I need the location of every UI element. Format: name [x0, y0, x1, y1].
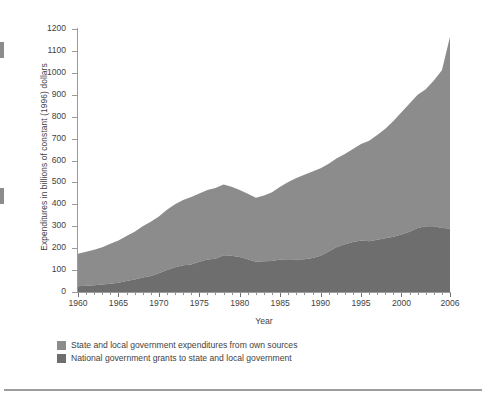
x-tick-mark-1975 — [199, 293, 200, 297]
x-minor-tick-1996 — [369, 293, 370, 295]
y-tick-mark-800 — [72, 117, 77, 118]
y-tick-label-100: 100 — [32, 265, 66, 274]
x-tick-mark-2000 — [401, 293, 402, 297]
x-tick-label-1980: 1980 — [230, 298, 249, 308]
x-minor-tick-1993 — [345, 293, 346, 295]
x-minor-tick-1962 — [94, 293, 95, 295]
y-tick-label-500: 500 — [32, 177, 66, 186]
y-tick-label-0: 0 — [32, 287, 66, 296]
x-minor-tick-1967 — [135, 293, 136, 295]
y-tick-mark-1200 — [72, 29, 77, 30]
x-minor-tick-2004 — [434, 293, 435, 295]
chart-legend: State and local government expenditures … — [57, 341, 297, 367]
x-tick-label-1975: 1975 — [190, 298, 209, 308]
x-tick-label-2006: 2006 — [440, 298, 459, 308]
y-tick-mark-300 — [72, 226, 77, 227]
x-minor-tick-1991 — [329, 293, 330, 295]
x-minor-tick-2005 — [442, 293, 443, 295]
x-minor-tick-1974 — [191, 293, 192, 295]
y-tick-mark-500 — [72, 182, 77, 183]
stacked-area-svg — [78, 29, 450, 292]
x-minor-tick-1973 — [183, 293, 184, 295]
y-tick-mark-400 — [72, 204, 77, 205]
x-minor-tick-2003 — [426, 293, 427, 295]
x-minor-tick-1988 — [304, 293, 305, 295]
bottom-horizontal-rule — [4, 389, 482, 391]
x-tick-mark-2006 — [450, 293, 451, 297]
x-axis-title: Year — [78, 316, 450, 326]
legend-item-own-sources: State and local government expenditures … — [57, 341, 297, 350]
x-tick-label-1965: 1965 — [109, 298, 128, 308]
y-tick-label-400: 400 — [32, 199, 66, 208]
x-minor-tick-1978 — [224, 293, 225, 295]
x-minor-tick-1972 — [175, 293, 176, 295]
x-minor-tick-1979 — [232, 293, 233, 295]
x-minor-tick-1999 — [393, 293, 394, 295]
x-tick-mark-1965 — [118, 293, 119, 297]
y-tick-mark-0 — [72, 292, 77, 293]
y-tick-label-200: 200 — [32, 243, 66, 252]
y-tick-mark-1000 — [72, 73, 77, 74]
x-minor-tick-1983 — [264, 293, 265, 295]
left-edge-crop-mark-bottom — [0, 188, 4, 204]
y-tick-mark-600 — [72, 161, 77, 162]
x-minor-tick-1968 — [143, 293, 144, 295]
y-tick-label-1100: 1100 — [32, 46, 66, 55]
x-minor-tick-1977 — [215, 293, 216, 295]
y-tick-mark-900 — [72, 95, 77, 96]
x-tick-mark-1980 — [240, 293, 241, 297]
y-tick-label-300: 300 — [32, 221, 66, 230]
x-minor-tick-1998 — [385, 293, 386, 295]
y-tick-label-1000: 1000 — [32, 68, 66, 77]
x-tick-label-1990: 1990 — [311, 298, 330, 308]
x-minor-tick-1997 — [377, 293, 378, 295]
legend-item-grants: National government grants to state and … — [57, 354, 297, 363]
x-tick-mark-1995 — [361, 293, 362, 297]
plot-area — [78, 29, 450, 292]
x-minor-tick-1969 — [151, 293, 152, 295]
x-minor-tick-1986 — [288, 293, 289, 295]
chart-figure: Expenditures in billions of constant (19… — [0, 0, 486, 395]
x-minor-tick-1963 — [102, 293, 103, 295]
x-minor-tick-2001 — [410, 293, 411, 295]
y-tick-label-600: 600 — [32, 156, 66, 165]
x-minor-tick-1976 — [207, 293, 208, 295]
y-axis-tick-labels: 0100200300400500600700800900100011001200 — [26, 0, 66, 395]
x-tick-mark-1990 — [321, 293, 322, 297]
x-minor-tick-1992 — [337, 293, 338, 295]
x-minor-tick-1961 — [86, 293, 87, 295]
legend-label-own-sources: State and local government expenditures … — [71, 341, 297, 350]
x-tick-label-1995: 1995 — [351, 298, 370, 308]
y-tick-mark-200 — [72, 248, 77, 249]
y-tick-mark-700 — [72, 139, 77, 140]
x-tick-label-1960: 1960 — [68, 298, 87, 308]
y-tick-label-1200: 1200 — [32, 24, 66, 33]
x-minor-tick-1984 — [272, 293, 273, 295]
x-minor-tick-1989 — [313, 293, 314, 295]
x-minor-tick-1987 — [296, 293, 297, 295]
y-tick-mark-100 — [72, 270, 77, 271]
x-minor-tick-1994 — [353, 293, 354, 295]
x-tick-mark-1985 — [280, 293, 281, 297]
legend-swatch-grants — [57, 354, 66, 363]
x-tick-mark-1960 — [78, 293, 79, 297]
x-minor-tick-1971 — [167, 293, 168, 295]
x-tick-label-2000: 2000 — [392, 298, 411, 308]
y-tick-label-800: 800 — [32, 112, 66, 121]
x-tick-label-1985: 1985 — [271, 298, 290, 308]
y-tick-mark-1100 — [72, 51, 77, 52]
y-tick-label-700: 700 — [32, 134, 66, 143]
x-minor-tick-1966 — [127, 293, 128, 295]
x-minor-tick-1982 — [256, 293, 257, 295]
legend-swatch-own-sources — [57, 341, 66, 350]
x-minor-tick-2002 — [418, 293, 419, 295]
y-tick-label-900: 900 — [32, 90, 66, 99]
legend-label-grants: National government grants to state and … — [71, 354, 292, 363]
x-minor-tick-1981 — [248, 293, 249, 295]
x-tick-mark-1970 — [159, 293, 160, 297]
x-tick-label-1970: 1970 — [149, 298, 168, 308]
left-edge-crop-mark-top — [0, 42, 4, 58]
x-minor-tick-1964 — [110, 293, 111, 295]
